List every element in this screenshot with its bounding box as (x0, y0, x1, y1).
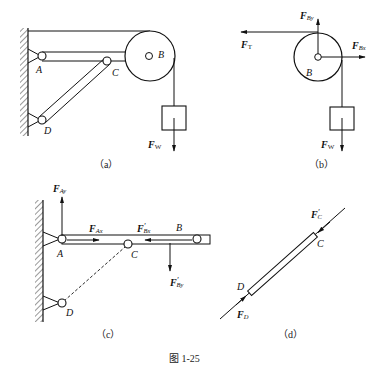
label-ft: FT (240, 39, 253, 51)
dashed-cd (64, 247, 125, 301)
pin-a-c (58, 235, 66, 243)
pin-c (103, 57, 111, 65)
wall-hatch-c (35, 200, 43, 322)
label-a: A (35, 64, 43, 75)
pulley-axle (146, 53, 153, 60)
label-fw-b: FW (320, 139, 335, 151)
wall-hatch (20, 28, 28, 136)
label-fd: FD (236, 309, 249, 320)
panel-label-d: （d） (278, 329, 303, 340)
pulley-axle-b (315, 54, 322, 61)
label-fby-prime: F′By (169, 276, 183, 288)
panel-b: FT FBy FBx B FW （b） (240, 10, 366, 170)
pin-a (38, 52, 46, 60)
bar-cd-edge1 (39, 58, 105, 117)
label-c-c: C (131, 249, 138, 260)
label-fax: FAx (88, 223, 103, 234)
pin-d (38, 116, 46, 124)
pin-b-c (193, 235, 201, 243)
label-fw: FW (147, 139, 162, 151)
panel-a: A C D B FW （a） (20, 28, 186, 170)
label-fbx-prime: F′Bx (136, 222, 150, 234)
label-b: B (158, 49, 164, 60)
label-b-c: B (176, 222, 182, 233)
label-d-d: D (236, 281, 245, 292)
label-a-c: A (56, 248, 64, 259)
label-d-c: D (65, 307, 74, 318)
pin-d-c (58, 299, 66, 307)
panel-c: FAy FAx F′Bx B A C D F′By （c） (35, 183, 210, 340)
label-fby: FBy (299, 10, 314, 21)
label-b-fbd: B (306, 67, 312, 78)
bar-cd-d (248, 233, 318, 296)
pin-c-c (124, 240, 132, 248)
label-d: D (43, 125, 52, 136)
panel-label-b: （b） (309, 159, 334, 170)
bar-cd-edge2 (45, 64, 110, 123)
figure-1-25: A C D B FW （a） FT FBy FBx B FW (0, 0, 376, 367)
panel-d: F′C C D FD （d） (220, 208, 345, 340)
force-arrow-fd (236, 296, 246, 305)
panel-label-a: （a） (94, 159, 118, 170)
label-fbx: FBx (351, 40, 366, 51)
force-arrow-fc-prime (318, 222, 330, 233)
figure-caption: 图 1-25 (169, 353, 200, 364)
label-fc-prime: F′C (310, 208, 322, 220)
panel-label-c: （c） (96, 329, 120, 340)
label-fay: FAy (52, 183, 66, 194)
label-c-d: C (317, 238, 324, 249)
label-c: C (112, 67, 119, 78)
